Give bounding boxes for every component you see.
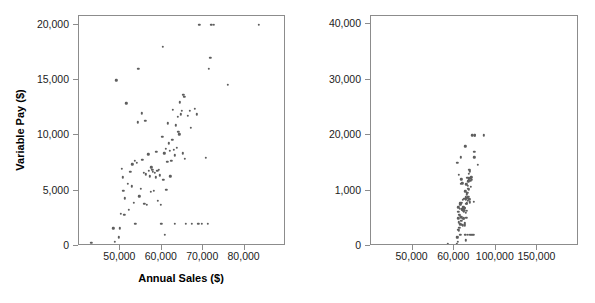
scatter-point — [461, 208, 463, 210]
scatter-point — [190, 126, 192, 128]
scatter-point — [467, 234, 469, 236]
x-tick-label: 50,000 — [103, 250, 135, 262]
scatter-point — [172, 109, 174, 111]
scatter-point — [151, 168, 153, 170]
scatter-point — [171, 139, 173, 141]
scatter-point — [456, 240, 458, 242]
scatter-point — [118, 236, 120, 238]
scatter-point — [455, 236, 457, 238]
scatter-point — [470, 234, 472, 236]
scatter-point — [466, 197, 468, 199]
scatter-point — [149, 175, 151, 177]
y-tick-mark — [365, 134, 370, 135]
scatter-point — [146, 204, 148, 206]
scatter-point — [472, 234, 474, 236]
scatter-point — [124, 197, 126, 199]
scatter-point — [466, 210, 468, 212]
scatter-point — [178, 133, 180, 135]
scatter-point — [148, 170, 150, 172]
scatter-point — [464, 145, 466, 147]
scatter-point — [142, 172, 144, 174]
scatter-point — [467, 188, 469, 190]
scatter-point — [457, 210, 459, 212]
scatter-point — [163, 152, 165, 154]
scatter-point — [169, 175, 171, 177]
scatter-point — [457, 236, 459, 238]
scatter-points-left — [79, 16, 284, 244]
scatter-point — [173, 154, 175, 156]
scatter-point — [468, 179, 470, 181]
y-tick-mark — [73, 190, 78, 191]
scatter-point — [471, 134, 473, 136]
scatter-point — [164, 147, 166, 149]
scatter-point — [472, 200, 474, 202]
scatter-point — [463, 217, 465, 219]
scatter-point — [467, 199, 469, 201]
scatter-point — [184, 157, 186, 159]
scatter-point — [185, 223, 187, 225]
scatter-point — [465, 196, 467, 198]
scatter-point — [209, 57, 211, 59]
scatter-point — [464, 234, 466, 236]
scatter-point — [226, 83, 228, 85]
y-tick-label: 20,000 — [329, 128, 361, 140]
scatter-point — [134, 223, 136, 225]
scatter-point — [463, 222, 465, 224]
scatter-point — [207, 223, 209, 225]
scatter-point — [115, 79, 117, 81]
scatter-point — [173, 149, 175, 151]
scatter-point — [471, 179, 473, 181]
scatter-point — [208, 68, 210, 70]
scatter-point — [467, 189, 469, 191]
scatter-point — [465, 203, 467, 205]
scatter-point — [468, 198, 470, 200]
scatter-point — [466, 202, 468, 204]
scatter-point — [464, 212, 466, 214]
scatter-point — [90, 241, 92, 243]
scatter-point — [469, 177, 471, 179]
scatter-point — [119, 227, 121, 229]
scatter-point — [174, 223, 176, 225]
scatter-point — [149, 191, 151, 193]
scatter-point — [464, 207, 466, 209]
x-tick-label: 60,000 — [145, 250, 177, 262]
scatter-point — [138, 195, 140, 197]
scatter-point — [483, 134, 485, 136]
y-tick-mark — [365, 23, 370, 24]
scatter-point — [458, 227, 460, 229]
scatter-point — [460, 220, 462, 222]
scatter-point — [167, 122, 169, 124]
scatter-point — [462, 208, 464, 210]
x-tick-label: 70,000 — [186, 250, 218, 262]
scatter-point — [457, 217, 459, 219]
scatter-point — [183, 96, 185, 98]
y-tick-label: 5,000 — [43, 184, 69, 196]
scatter-point — [467, 195, 469, 197]
scatter-point — [465, 193, 467, 195]
scatter-point — [198, 24, 200, 26]
scatter-point — [161, 46, 163, 48]
scatter-point — [122, 176, 124, 178]
scatter-point — [130, 185, 132, 187]
scatter-point — [471, 234, 473, 236]
scatter-point — [191, 223, 193, 225]
scatter-point — [140, 112, 142, 114]
scatter-point — [181, 152, 183, 154]
scatter-point — [122, 190, 124, 192]
scatter-point — [463, 210, 465, 212]
scatter-point — [462, 218, 464, 220]
scatter-point — [113, 240, 115, 242]
scatter-point — [468, 201, 470, 203]
scatter-point — [458, 208, 460, 210]
scatterplot-figure: 05,00010,00015,00020,00050,00060,00070,0… — [0, 0, 595, 303]
scatter-point — [137, 68, 139, 70]
scatter-point — [145, 173, 147, 175]
scatter-point — [463, 207, 465, 209]
y-tick-label: 30,000 — [329, 73, 361, 85]
scatter-point — [464, 190, 466, 192]
scatter-point — [120, 167, 122, 169]
scatter-point — [161, 135, 163, 137]
scatter-point — [466, 192, 468, 194]
scatter-point — [160, 223, 162, 225]
scatter-point — [460, 202, 462, 204]
